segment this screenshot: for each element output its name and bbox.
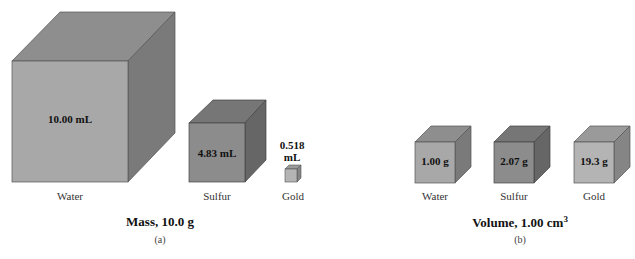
sulfur-name-b: Sulfur bbox=[489, 190, 539, 202]
panel-b-title: Volume, 1.00 cm3 bbox=[450, 214, 590, 231]
water-volume-label: 10.00 mL bbox=[12, 113, 128, 125]
panel-a-title: Mass, 10.0 g bbox=[100, 214, 220, 230]
gold-volume-label-line1: 0.518 bbox=[278, 139, 306, 151]
water-mass-label: 1.00 g bbox=[415, 155, 455, 167]
sulfur-cube-a bbox=[189, 100, 266, 182]
gold-volume-label-line2: mL bbox=[278, 151, 306, 163]
gold-cube-a bbox=[285, 165, 301, 182]
sulfur-mass-label: 2.07 g bbox=[494, 155, 534, 167]
sulfur-name-a: Sulfur bbox=[189, 190, 245, 202]
gold-name-b: Gold bbox=[569, 190, 619, 202]
panel-b-caption: (b) bbox=[500, 234, 540, 245]
water-name-b: Water bbox=[410, 190, 460, 202]
sulfur-volume-label: 4.83 mL bbox=[189, 147, 245, 159]
panel-a-caption: (a) bbox=[140, 234, 180, 245]
water-cube-a bbox=[12, 12, 175, 182]
gold-mass-label: 19.3 g bbox=[574, 155, 614, 167]
gold-name-a: Gold bbox=[275, 190, 311, 202]
water-name-a: Water bbox=[12, 190, 128, 202]
